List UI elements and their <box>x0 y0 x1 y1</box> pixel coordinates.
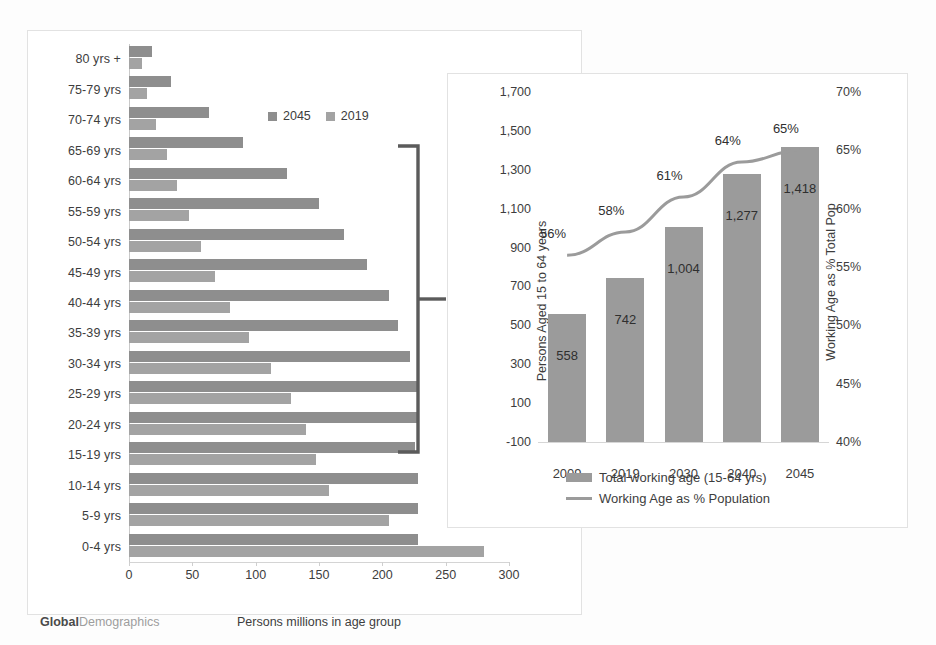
bar-2019 <box>129 180 177 191</box>
x-tick-label: 100 <box>245 568 266 582</box>
bar-2045 <box>129 473 418 484</box>
y-right-tick-label: 60% <box>836 202 861 216</box>
legend-label-2019: 2019 <box>341 109 369 123</box>
y-right-tick-label: 70% <box>836 85 861 99</box>
x-tick-label: 50 <box>185 568 199 582</box>
left-value-axis-ticks: 050100150200250300 <box>129 562 509 584</box>
bar-2019 <box>129 485 329 496</box>
age-group-row: 0-4 yrs <box>129 532 509 562</box>
right-chart-panel: Persons Aged 15 to 64 years Working Age … <box>447 73 908 528</box>
bar-2019 <box>129 515 389 526</box>
bar-2019 <box>129 119 156 130</box>
age-group-label: 5-9 yrs <box>82 509 121 523</box>
bar-2045 <box>129 442 415 453</box>
watermark-bold: Global <box>40 615 79 629</box>
x-tick-mark <box>256 562 257 566</box>
bar-2045 <box>129 229 344 240</box>
age-group-label: 70-74 yrs <box>68 113 121 127</box>
legend-swatch-2045 <box>268 112 277 121</box>
bar-2045 <box>129 351 410 362</box>
x-tick-mark <box>446 562 447 566</box>
legend-swatch-2019 <box>326 112 335 121</box>
x-tick-label: 0 <box>126 568 133 582</box>
x-tick-mark <box>382 562 383 566</box>
age-group-label: 30-34 yrs <box>68 357 121 371</box>
y-left-tick-label: 500 <box>510 318 531 332</box>
age-group-row: 80 yrs + <box>129 44 509 74</box>
bar-2045 <box>129 46 152 57</box>
y-right-tick-label: 55% <box>836 260 861 274</box>
bar-2045 <box>129 76 171 87</box>
y-left-tick-label: 1,500 <box>500 124 531 138</box>
bar-2019 <box>129 58 142 69</box>
age-group-label: 35-39 yrs <box>68 326 121 340</box>
age-group-label: 20-24 yrs <box>68 418 121 432</box>
y-right-tick-label: 45% <box>836 377 861 391</box>
y-left-tick-label: 100 <box>510 396 531 410</box>
working-age-percent-line <box>538 92 829 442</box>
y-right-tick-label: 50% <box>836 318 861 332</box>
x-tick-mark <box>509 562 510 566</box>
bar-2045 <box>129 320 398 331</box>
age-group-label: 60-64 yrs <box>68 174 121 188</box>
x-tick-label: 150 <box>309 568 330 582</box>
bar-2045 <box>129 198 319 209</box>
bar-2019 <box>129 241 201 252</box>
y-left-tick-label: 900 <box>510 241 531 255</box>
age-group-label: 25-29 yrs <box>68 387 121 401</box>
legend-label-total-working-age: Total working age (15-64 yrs) <box>599 470 767 485</box>
y-left-tick-label: 300 <box>510 357 531 371</box>
bar-2019 <box>129 393 291 404</box>
bar-2019 <box>129 454 316 465</box>
bar-2045 <box>129 503 418 514</box>
age-group-label: 65-69 yrs <box>68 144 121 158</box>
age-group-label: 0-4 yrs <box>82 540 121 554</box>
bar-2019 <box>129 271 215 282</box>
bar-2019 <box>129 302 230 313</box>
legend-entry-total-working-age: Total working age (15-64 yrs) <box>566 470 770 485</box>
x-tick-label: 200 <box>372 568 393 582</box>
bar-2045 <box>129 290 389 301</box>
age-group-label: 10-14 yrs <box>68 479 121 493</box>
age-group-label: 75-79 yrs <box>68 83 121 97</box>
x-tick-mark <box>129 562 130 566</box>
x-tick-label: 300 <box>499 568 520 582</box>
y-left-tick-label: -100 <box>506 435 531 449</box>
age-group-label: 80 yrs + <box>75 52 121 66</box>
age-group-label: 45-49 yrs <box>68 266 121 280</box>
age-group-label: 40-44 yrs <box>68 296 121 310</box>
right-chart-legend: Total working age (15-64 yrs) Working Ag… <box>566 470 770 512</box>
bar-2045 <box>129 534 418 545</box>
right-chart-baseline <box>538 442 829 443</box>
watermark-light: Demographics <box>79 615 160 629</box>
left-chart-legend: 2045 2019 <box>268 109 369 123</box>
legend-label-2045: 2045 <box>283 109 311 123</box>
age-group-label: 50-54 yrs <box>68 235 121 249</box>
bar-2019 <box>129 546 484 557</box>
bar-2045 <box>129 137 243 148</box>
y-left-tick-label: 1,700 <box>500 85 531 99</box>
x-tick-mark <box>192 562 193 566</box>
y-right-tick-label: 40% <box>836 435 861 449</box>
legend-label-working-age-pct: Working Age as % Population <box>599 491 770 506</box>
bar-2045 <box>129 107 209 118</box>
bar-2019 <box>129 424 306 435</box>
legend-bar-swatch <box>566 473 592 482</box>
legend-line-swatch <box>566 497 592 500</box>
x-category-label: 2045 <box>785 466 814 481</box>
bracket-annotation <box>396 143 452 455</box>
bar-2019 <box>129 363 271 374</box>
bar-2019 <box>129 332 249 343</box>
y-left-tick-label: 1,100 <box>500 202 531 216</box>
bar-2019 <box>129 149 167 160</box>
age-group-label: 15-19 yrs <box>68 448 121 462</box>
right-chart-plot-area: 1,7001,5001,3001,100900700500300100-1007… <box>538 92 829 442</box>
left-chart-x-axis-title: Persons millions in age group <box>129 615 509 629</box>
x-tick-mark <box>319 562 320 566</box>
bar-2019 <box>129 88 147 99</box>
watermark-globaldemographics: GlobalDemographics <box>40 615 160 629</box>
bar-2045 <box>129 381 418 392</box>
y-left-tick-label: 700 <box>510 279 531 293</box>
bar-2045 <box>129 412 418 423</box>
bar-2019 <box>129 210 189 221</box>
